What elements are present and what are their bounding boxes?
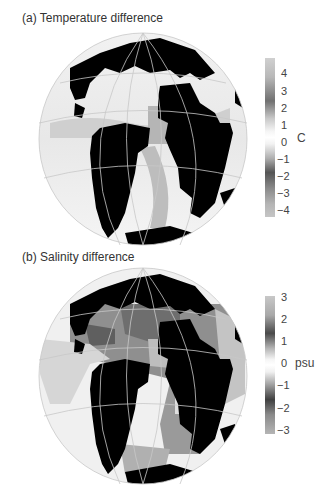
salinity-colorbar — [265, 296, 275, 434]
tick-label: 2 — [281, 103, 287, 114]
temperature-unit-label: C — [297, 131, 306, 145]
tick-label: 2 — [281, 314, 287, 325]
tick-label: 1 — [281, 336, 287, 347]
tick-label: 3 — [281, 292, 287, 303]
tick-label: −3 — [277, 425, 290, 436]
tick-label: −2 — [277, 403, 290, 414]
tick-label: −3 — [277, 188, 290, 199]
tick-label: −1 — [277, 154, 290, 165]
tick-label: −4 — [277, 205, 290, 216]
tick-label: 3 — [281, 86, 287, 97]
panel-a-title: (a) Temperature difference — [22, 11, 163, 25]
tick-label: −2 — [277, 171, 290, 182]
tick-label: 0 — [281, 137, 287, 148]
panel-b-title: (b) Salinity difference — [22, 250, 135, 264]
temperature-globe-map — [30, 28, 260, 250]
tick-label: 4 — [281, 68, 287, 79]
temperature-colorbar — [265, 58, 275, 217]
tick-label: 0 — [281, 358, 287, 369]
salinity-globe-map — [30, 264, 260, 492]
tick-label: −1 — [277, 380, 290, 391]
tick-label: 1 — [281, 120, 287, 131]
salinity-unit-label: psu — [295, 356, 314, 370]
